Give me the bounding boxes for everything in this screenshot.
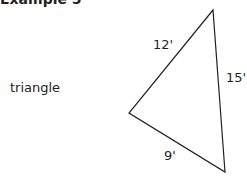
side-length-15: 15' xyxy=(226,71,246,84)
side-length-9: 9' xyxy=(164,149,176,162)
side-length-12: 12' xyxy=(153,38,173,51)
triangle-figure xyxy=(0,0,247,178)
triangle-shape xyxy=(129,10,225,172)
